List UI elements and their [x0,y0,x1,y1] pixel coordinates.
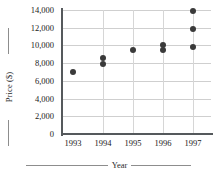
y-axis-line [61,8,63,136]
plot-area [61,10,211,134]
y-axis-label-block: Price ($) [0,28,18,146]
data-point [100,61,106,67]
y-axis-tick-label: 12,000 [31,23,54,33]
gridline-horizontal [61,99,211,100]
y-axis-label-rule-top [8,28,9,54]
gridline-horizontal [61,116,211,117]
y-axis-tick-label: 2,000 [35,111,54,121]
gridline-horizontal [61,10,211,11]
y-axis-tick-label: 14,000 [31,5,54,15]
x-axis-tick-label: 1997 [185,138,202,148]
x-axis-tick-labels: 19931994199519961997 [61,138,213,152]
y-axis-tick-labels: 14,00012,00010,0008,0006,0004,0002,0000 [18,0,58,140]
scatter-chart: Price ($) 14,00012,00010,0008,0006,0004,… [0,0,217,177]
data-point [160,47,166,53]
x-axis-tick-label: 1994 [95,138,112,148]
gridline-horizontal [61,45,211,46]
y-axis-tick-label: 0 [50,129,54,139]
y-axis-tick-label: 8,000 [35,58,54,68]
x-axis-tick-label: 1996 [155,138,172,148]
data-point [100,55,106,61]
x-axis-label-rule-right [131,165,191,166]
gridline-vertical [133,10,134,134]
x-axis-label-rule-left [26,165,108,166]
y-axis-label-rule-bottom [8,120,9,146]
gridline-vertical [163,10,164,134]
data-point [130,47,136,53]
y-axis-tick-label: 6,000 [35,76,54,86]
gridline-horizontal [61,28,211,29]
data-point [190,44,196,50]
data-point [70,69,76,75]
x-axis-tick-label: 1993 [65,138,82,148]
x-axis-line [61,133,213,135]
y-axis-tick-label: 4,000 [35,94,54,104]
x-axis-tick-label: 1995 [125,138,142,148]
y-axis-tick-label: 10,000 [31,40,54,50]
x-axis-label: Year [108,160,132,170]
gridline-vertical [103,10,104,134]
gridline-horizontal [61,81,211,82]
data-point [190,8,196,14]
gridline-horizontal [61,63,211,64]
y-axis-label: Price ($) [4,72,14,102]
x-axis-label-block: Year [0,158,217,172]
data-point [190,26,196,32]
